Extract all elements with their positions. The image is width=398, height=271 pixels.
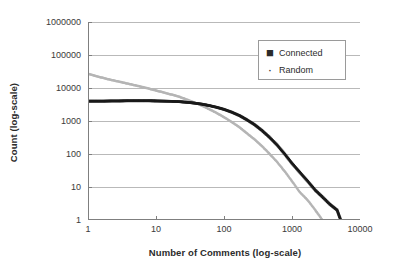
- legend-item-connected: ■ Connected: [264, 44, 345, 61]
- y-axis-tick-labels: 1101001000100001000001000000: [14, 0, 85, 271]
- series-random-markers: [88, 73, 324, 220]
- y-tick-label-10: 10: [14, 182, 85, 192]
- legend-marker-random: ·: [264, 65, 276, 75]
- y-tick-label-100: 100: [14, 149, 85, 159]
- legend-item-random: · Random: [264, 61, 345, 78]
- y-tick-label-1000000: 1000000: [14, 17, 85, 27]
- y-tick-label-1: 1: [14, 215, 85, 225]
- legend-label-random: Random: [279, 65, 313, 75]
- legend-marker-connected: ■: [264, 48, 276, 58]
- x-tick-label-100: 100: [216, 224, 231, 234]
- y-tick-label-1000: 1000: [14, 116, 85, 126]
- x-tick-label-10: 10: [151, 224, 161, 234]
- y-tick-label-100000: 100000: [14, 50, 85, 60]
- x-tick-label-10000: 10000: [347, 224, 372, 234]
- x-tick-label-1000: 1000: [282, 224, 302, 234]
- legend-label-connected: Connected: [279, 48, 323, 58]
- chart-legend: ■ Connected · Random: [258, 40, 346, 80]
- chart-figure: Count (log-scale) 1101001000100001000001…: [0, 0, 398, 271]
- x-tick-label-1: 1: [85, 224, 90, 234]
- series-connected-markers: [88, 99, 342, 220]
- x-axis-title: Number of Comments (log-scale): [88, 247, 362, 258]
- y-tick-label-10000: 10000: [14, 83, 85, 93]
